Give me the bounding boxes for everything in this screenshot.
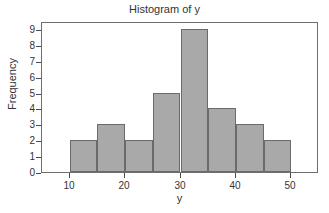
y-axis-tick-label: 5 <box>15 89 35 99</box>
y-axis-tick-label: 7 <box>15 57 35 67</box>
chart-title: Histogram of y <box>0 3 329 15</box>
histogram-bar <box>236 124 264 172</box>
histogram-bar <box>70 140 98 172</box>
plot-area <box>42 23 317 172</box>
x-axis-tick <box>290 173 291 178</box>
plot-frame <box>41 22 318 173</box>
histogram-bar <box>97 124 125 172</box>
x-axis-label: y <box>41 192 318 204</box>
y-axis-tick-label: 6 <box>15 73 35 83</box>
x-axis-tick-label: 20 <box>109 180 139 191</box>
x-axis-tick <box>180 173 181 178</box>
histogram-bar <box>153 93 181 172</box>
y-axis-tick-label: 0 <box>15 168 35 178</box>
y-axis-tick <box>36 173 41 174</box>
y-axis-tick-label: 2 <box>15 136 35 146</box>
histogram-bar <box>125 140 153 172</box>
histogram-bar <box>208 108 236 172</box>
y-axis-tick-label: 9 <box>15 25 35 35</box>
x-axis-tick-label: 50 <box>275 180 305 191</box>
x-axis-tick <box>235 173 236 178</box>
x-axis-tick <box>124 173 125 178</box>
y-axis-tick-label: 1 <box>15 152 35 162</box>
y-axis-tick-label: 3 <box>15 120 35 130</box>
histogram-bar <box>181 29 209 172</box>
histogram-chart: Histogram of y Frequency 0123456789 1020… <box>0 0 329 213</box>
x-axis-tick <box>69 173 70 178</box>
y-axis-tick-label: 8 <box>15 41 35 51</box>
histogram-bar <box>264 140 292 172</box>
x-axis-tick-label: 30 <box>165 180 195 191</box>
x-axis-tick-label: 10 <box>54 180 84 191</box>
y-axis-tick-label: 4 <box>15 104 35 114</box>
x-axis-tick-label: 40 <box>220 180 250 191</box>
